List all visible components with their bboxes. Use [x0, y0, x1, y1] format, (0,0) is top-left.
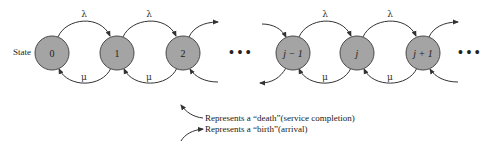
mu-label: μ	[81, 72, 87, 82]
state-node-2: 2	[166, 36, 200, 70]
state-label: 2	[181, 48, 186, 59]
arc-jp1-out	[429, 22, 458, 37]
state-label: 1	[115, 48, 120, 59]
arc-1-to-2	[123, 21, 176, 37]
state-label: j + 1	[411, 48, 433, 59]
mu-label: μ	[322, 72, 328, 82]
state-label: 0	[50, 48, 55, 59]
mu-label: μ	[387, 72, 393, 82]
legend: Represents a “death”(service completion)…	[181, 105, 355, 141]
state-label: j − 1	[281, 48, 303, 59]
arc-2-out	[189, 22, 218, 37]
arc-j-to-jp1	[363, 21, 416, 37]
death-arrow-icon	[181, 105, 203, 118]
ellipsis-icon: • • •	[458, 45, 480, 60]
birth-arrow-icon	[181, 129, 203, 141]
legend-birth-text: Represents a “birth”(arrival)	[205, 124, 307, 134]
state-node-j-plus-1: j + 1	[406, 36, 440, 70]
mu-label: μ	[146, 72, 152, 82]
arc-0-to-1	[58, 21, 110, 37]
lambda-label: λ	[146, 9, 152, 19]
lambda-label: λ	[81, 9, 87, 19]
legend-death-text: Represents a “death”(service completion)	[205, 113, 355, 123]
state-node-j-minus-1: j − 1	[276, 36, 310, 70]
ellipsis-icon: • • •	[229, 45, 251, 60]
arc-jm1-to-j	[299, 21, 351, 37]
arc-in-to-jp1	[430, 69, 458, 82]
state-row-label: State	[13, 47, 31, 57]
arc-in-to-2	[190, 69, 218, 82]
arc-jm1-out	[260, 68, 286, 83]
state-node-1: 1	[100, 36, 134, 70]
lambda-label: λ	[387, 9, 393, 19]
birth-arcs	[58, 21, 458, 37]
lambda-label: λ	[322, 9, 328, 19]
birth-death-diagram: State λ λ λ λ μ μ μ μ 0 1	[0, 0, 489, 144]
state-node-j: j	[340, 36, 374, 70]
arc-in-to-jm1	[262, 24, 286, 37]
state-node-0: 0	[35, 36, 69, 70]
